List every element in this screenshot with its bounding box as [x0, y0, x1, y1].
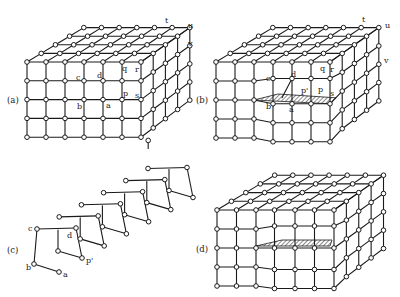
- atom-node: [63, 135, 68, 140]
- atom-node: [332, 208, 337, 213]
- atom-node: [71, 43, 76, 48]
- atom-node: [352, 99, 357, 104]
- bond: [76, 228, 82, 258]
- point-label-p: p: [318, 85, 323, 94]
- atom-node: [228, 51, 233, 56]
- bond: [254, 138, 273, 142]
- atom-node: [145, 43, 150, 48]
- atom-node: [124, 178, 129, 183]
- point-label-d: d: [97, 71, 102, 80]
- point-label-a: a: [106, 101, 111, 110]
- atom-node: [272, 246, 277, 251]
- atom-node: [85, 34, 90, 39]
- atom-node: [191, 195, 196, 200]
- atom-node: [214, 60, 219, 65]
- atom-node: [258, 182, 263, 187]
- atom-node: [341, 25, 346, 30]
- atom-node: [53, 43, 58, 48]
- atom-node: [63, 97, 68, 102]
- atom-node: [364, 89, 369, 94]
- atom-node: [344, 237, 349, 242]
- atom-node: [328, 140, 333, 145]
- atom-node: [290, 60, 295, 65]
- atom-node: [139, 34, 144, 39]
- atom-node: [234, 284, 239, 289]
- atom-node: [44, 60, 49, 65]
- atom-node: [306, 25, 311, 30]
- bond: [120, 204, 126, 234]
- atom-node: [274, 34, 279, 39]
- atom-node: [82, 116, 87, 121]
- atom-node: [152, 25, 157, 30]
- atom-node: [272, 224, 277, 229]
- atom-node: [234, 208, 239, 213]
- atom-node: [151, 107, 156, 112]
- atom-node: [163, 98, 168, 103]
- panel-c-atom-chain: abcdp': [26, 138, 195, 279]
- atom-node: [293, 286, 298, 291]
- atom-node: [100, 225, 105, 230]
- atom-node: [214, 79, 219, 84]
- atom-node: [344, 218, 349, 223]
- atom-node: [364, 34, 369, 39]
- atom-node: [135, 25, 140, 30]
- atom-node: [332, 246, 337, 251]
- point-label-b: b: [26, 263, 31, 272]
- atom-node: [309, 173, 314, 178]
- atom-node: [309, 121, 314, 126]
- atom-node: [332, 286, 337, 291]
- atom-node: [319, 190, 324, 195]
- atom-node: [293, 224, 298, 229]
- atom-node: [99, 25, 104, 30]
- atom-node: [254, 246, 259, 251]
- atom-node: [363, 173, 368, 178]
- panel-d-lattice-with-dislocation: [215, 173, 386, 291]
- atom-node: [352, 80, 357, 85]
- atom-node: [340, 51, 345, 56]
- atom-node: [25, 116, 30, 121]
- atom-node: [340, 89, 345, 94]
- atom-node: [247, 51, 252, 56]
- atom-node: [101, 97, 106, 102]
- atom-node: [377, 62, 382, 67]
- atom-node: [328, 60, 333, 65]
- bond: [104, 192, 143, 193]
- atom-node: [233, 136, 238, 141]
- atom-node: [281, 190, 286, 195]
- atom-node: [139, 79, 144, 84]
- atom-node: [101, 135, 106, 140]
- point-label-pprime: p': [301, 86, 308, 95]
- atom-node: [82, 60, 87, 65]
- atom-node: [215, 246, 220, 251]
- point-label-b: b: [266, 102, 271, 111]
- atom-node: [350, 182, 355, 187]
- panel-b-lattice-with-inserted-half-plane: abcdp'pqrstuv: [214, 15, 390, 144]
- atom-node: [325, 199, 330, 204]
- atom-node: [120, 79, 125, 84]
- atom-node: [151, 51, 156, 56]
- atom-node: [146, 219, 151, 224]
- atom-node: [344, 199, 349, 204]
- atom-node: [175, 34, 180, 39]
- point-label-t: t: [165, 16, 169, 25]
- panel-label-b: (b): [196, 95, 208, 105]
- atom-node: [151, 70, 156, 75]
- atom-node: [352, 61, 357, 66]
- atom-node: [312, 224, 317, 229]
- atom-node: [79, 203, 84, 208]
- atom-node: [63, 79, 68, 84]
- point-label-u: u: [385, 21, 390, 30]
- atom-node: [290, 121, 295, 126]
- atom-node: [312, 286, 317, 291]
- atom-node: [215, 208, 220, 213]
- atom-node: [122, 212, 127, 217]
- atom-node: [321, 51, 326, 56]
- atom-node: [234, 265, 239, 270]
- atom-node: [254, 227, 259, 232]
- point-label-a: a: [63, 270, 68, 279]
- atom-node: [25, 135, 30, 140]
- lattice-figure: abcdpqrstuv abcdp'pqrstuv abcdp' (a) (b)…: [0, 0, 400, 297]
- bond: [126, 180, 165, 181]
- atom-node: [340, 108, 345, 113]
- atom-node: [356, 246, 361, 251]
